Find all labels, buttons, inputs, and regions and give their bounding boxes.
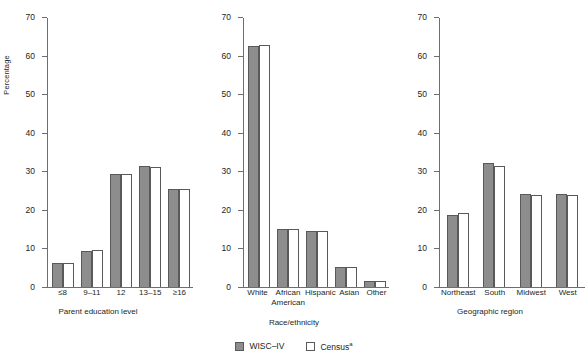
legend-swatch-wisc-icon [235,342,244,351]
y-tick-30: 30 [434,171,439,172]
bar-census [288,229,299,287]
bar-group [302,18,331,287]
bar-wisc-iv [168,189,179,287]
bar-census [121,174,132,287]
bar-wisc-iv [52,263,63,287]
y-tick-40: 40 [238,133,243,134]
y-tick-label-70: 70 [222,13,231,22]
y-tick-label-40: 40 [418,128,427,137]
bar-wisc-iv [483,163,494,287]
x-tick-label-line: American [271,298,305,308]
bar-wisc-iv [335,267,346,287]
x-tick-label-line: Hispanic [305,288,336,297]
x-tick-label: Other [363,288,390,314]
legend-item-census: Censusa [306,341,352,352]
bar-census [375,281,386,287]
bar-group [440,18,476,287]
bar-wisc-iv [81,251,92,287]
y-axis-label: Percentage [2,30,11,120]
legend-item-wisc: WISC–IV [235,341,284,351]
y-tick-60: 60 [434,56,439,57]
y-tick-label-0: 0 [226,283,231,292]
bar-group [513,18,549,287]
panel-parent-education: Percentage 0 10 20 30 40 50 60 70 ≤89–11… [0,0,196,330]
x-tick-label-line: Other [366,288,386,297]
bar-wisc-iv [447,215,458,288]
bar-census [531,195,542,287]
panels-row: Percentage 0 10 20 30 40 50 60 70 ≤89–11… [0,0,588,330]
bar-census [494,166,505,288]
plot-area-race-ethnicity: 0 10 20 30 40 50 60 70 [243,18,389,288]
x-axis-title-geographic-region: Geographic region [392,307,588,316]
bar-census [346,267,357,287]
bar-census [259,45,270,287]
legend-swatch-census-icon [306,342,315,351]
plot-area-parent-education: 0 10 20 30 40 50 60 70 [47,18,193,288]
bar-group [77,18,106,287]
y-tick-label-30: 30 [26,167,35,176]
panel-race-ethnicity: 0 10 20 30 40 50 60 70 WhiteAfricanAmeri… [196,0,392,330]
bar-census [567,195,578,287]
y-tick-label-60: 60 [418,51,427,60]
y-tick-10: 10 [42,248,47,249]
y-tick-label-50: 50 [222,90,231,99]
y-tick-40: 40 [434,133,439,134]
y-tick-70: 70 [434,17,439,18]
panel-geographic-region: 0 10 20 30 40 50 60 70 NortheastSouthMid… [392,0,588,330]
bar-group [273,18,302,287]
y-tick-label-40: 40 [26,128,35,137]
y-tick-20: 20 [434,210,439,211]
y-tick-label-70: 70 [26,13,35,22]
y-tick-70: 70 [42,17,47,18]
y-tick-label-50: 50 [418,90,427,99]
y-tick-label-0: 0 [422,283,427,292]
bar-group [476,18,512,287]
x-tick-label: Asian [336,288,363,314]
bar-wisc-iv [139,166,150,287]
bar-group [360,18,389,287]
x-tick-label-line: African [276,288,301,297]
legend-label-census-text: Census [320,342,349,352]
x-tick-labels-race-ethnicity: WhiteAfricanAmericanHispanicAsianOther [244,288,390,314]
legend-label-census-superscript: a [349,341,352,347]
bar-groups-geographic-region [440,18,585,287]
y-tick-0: 0 [434,287,439,288]
bar-wisc-iv [248,46,259,287]
y-tick-20: 20 [42,210,47,211]
y-tick-70: 70 [238,17,243,18]
y-tick-label-30: 30 [418,167,427,176]
y-tick-label-20: 20 [26,206,35,215]
bar-wisc-iv [556,194,567,287]
y-tick-label-40: 40 [222,128,231,137]
bar-wisc-iv [364,281,375,287]
bar-group [106,18,135,287]
bar-group [549,18,585,287]
bar-group [48,18,77,287]
y-tick-label-50: 50 [26,90,35,99]
y-tick-60: 60 [42,56,47,57]
x-tick-label-line: White [247,288,267,297]
bar-wisc-iv [110,174,121,287]
x-axis-title-parent-education: Parent education level [0,307,196,316]
bar-groups-parent-education [48,18,193,287]
plot-area-geographic-region: 0 10 20 30 40 50 60 70 [439,18,585,288]
bar-census [92,250,103,287]
bar-groups-race-ethnicity [244,18,389,287]
bar-group [135,18,164,287]
y-tick-10: 10 [238,248,243,249]
bar-census [63,263,74,287]
y-tick-label-60: 60 [26,51,35,60]
x-tick-label: Hispanic [305,288,336,314]
y-tick-50: 50 [238,94,243,95]
bar-wisc-iv [520,194,531,287]
y-tick-label-0: 0 [30,283,35,292]
y-tick-50: 50 [434,94,439,95]
bar-wisc-iv [277,229,288,287]
y-tick-label-10: 10 [222,244,231,253]
y-tick-label-10: 10 [26,244,35,253]
y-tick-0: 0 [238,287,243,288]
y-tick-label-60: 60 [222,51,231,60]
y-tick-label-10: 10 [418,244,427,253]
chart-legend: WISC–IV Censusa [0,341,588,352]
y-tick-60: 60 [238,56,243,57]
